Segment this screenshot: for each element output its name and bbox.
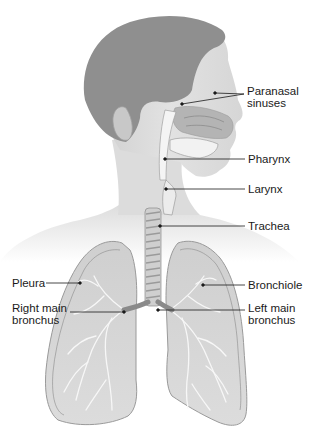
right-lung [46, 241, 137, 424]
left-lung [166, 241, 247, 425]
label-pharynx: Pharynx [248, 153, 290, 165]
label-bronchiole: Bronchiole [248, 279, 302, 291]
label-trachea: Trachea [248, 220, 290, 232]
label-left-main-bronchus: Left main bronchus [248, 302, 295, 326]
label-paranasal-sinuses: Paranasal sinuses [247, 85, 299, 109]
label-larynx: Larynx [248, 183, 283, 195]
label-pleura: Pleura [12, 277, 45, 289]
trachea-structure [145, 208, 161, 306]
label-right-main-bronchus: Right main bronchus [12, 302, 67, 326]
